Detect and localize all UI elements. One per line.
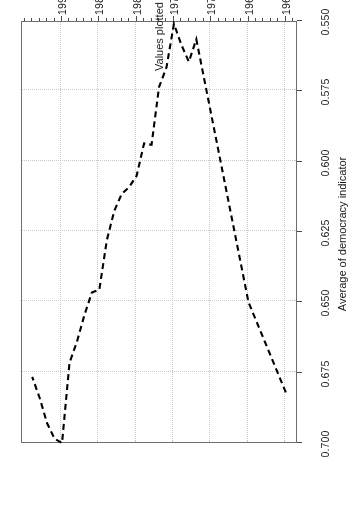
y-tick-label: 0.675 <box>319 356 331 392</box>
x-tick-minor <box>83 18 84 21</box>
x-tick-label: 1975 <box>168 0 180 17</box>
x-tick-minor <box>240 18 241 21</box>
x-tick-label: 1985 <box>93 0 105 17</box>
y-tick-major <box>297 442 302 443</box>
x-tick-minor <box>195 18 196 21</box>
y-tick-major <box>297 301 302 302</box>
y-tick-label: 0.600 <box>319 145 331 181</box>
x-tick-minor <box>54 18 55 21</box>
x-tick-minor <box>203 18 204 21</box>
x-tick-minor <box>46 18 47 21</box>
x-tick-minor <box>106 18 107 21</box>
y-tick-label: 0.700 <box>319 426 331 462</box>
x-tick-minor <box>121 18 122 21</box>
x-tick-minor <box>262 18 263 21</box>
x-tick-minor <box>31 18 32 21</box>
x-axis-title: Values plotted for 1960, 1965, and 1972–… <box>153 0 165 71</box>
x-tick-minor <box>270 18 271 21</box>
x-tick-minor <box>91 18 92 21</box>
y-tick-major <box>297 372 302 373</box>
x-tick-minor <box>113 18 114 21</box>
x-tick-minor <box>165 18 166 21</box>
x-tick-label: 1980 <box>131 0 143 17</box>
x-tick-minor <box>180 18 181 21</box>
y-tick-major <box>297 90 302 91</box>
x-tick-minor <box>225 18 226 21</box>
x-tick-minor <box>151 18 152 21</box>
series-line <box>32 24 286 443</box>
x-tick-minor <box>292 18 293 21</box>
y-tick-major <box>297 20 302 21</box>
democracy-indicator-line <box>21 21 297 443</box>
y-tick-major <box>297 161 302 162</box>
x-tick-label: 1965 <box>243 0 255 17</box>
x-tick-minor <box>188 18 189 21</box>
x-tick-minor <box>24 18 25 21</box>
x-tick-minor <box>128 18 129 21</box>
y-tick-major <box>297 231 302 232</box>
x-tick-minor <box>69 18 70 21</box>
x-tick-minor <box>277 18 278 21</box>
x-tick-label: 1960 <box>280 0 292 17</box>
x-tick-minor <box>233 18 234 21</box>
x-tick-minor <box>143 18 144 21</box>
y-tick-label: 0.575 <box>319 74 331 110</box>
x-tick-label: 1990 <box>56 0 68 17</box>
y-tick-label: 0.625 <box>319 215 331 251</box>
y-axis-title: Average of democracy indicator <box>336 144 348 324</box>
y-tick-label: 0.550 <box>319 4 331 40</box>
x-tick-label: 1970 <box>205 0 217 17</box>
x-tick-minor <box>76 18 77 21</box>
x-tick-minor <box>255 18 256 21</box>
x-tick-minor <box>39 18 40 21</box>
y-tick-label: 0.650 <box>319 285 331 321</box>
x-tick-minor <box>218 18 219 21</box>
